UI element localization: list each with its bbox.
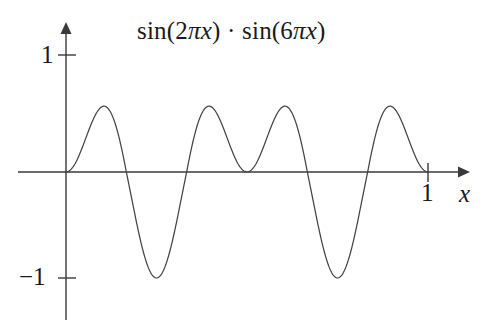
x-axis-arrow-icon xyxy=(458,167,470,178)
function-curve xyxy=(66,106,428,278)
plot-figure: sin(2πx) · sin(6πx) 1 −1 1 x xyxy=(0,0,493,333)
y-axis-tick-label-one: 1 xyxy=(41,42,54,67)
x-axis-tick-label-one: 1 xyxy=(421,180,434,205)
y-axis-tick-label-negative-one: −1 xyxy=(19,264,46,289)
plot-title: sin(2πx) · sin(6πx) xyxy=(137,18,326,43)
plot-canvas xyxy=(0,0,493,333)
y-axis-arrow-icon xyxy=(61,22,72,34)
title-text: sin(2πx) · sin(6πx) xyxy=(137,17,326,44)
x-axis-name-label: x xyxy=(459,181,470,206)
